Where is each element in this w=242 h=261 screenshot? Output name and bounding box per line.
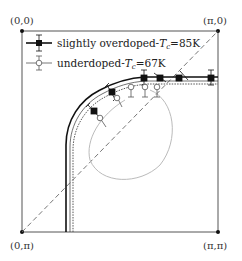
corner-label-bottom-right: (π,π): [203, 240, 227, 251]
underdoped-fermi-surface: [73, 84, 218, 232]
overdoped-fermi-surface-inner: [70, 81, 218, 232]
corner-dot-bottom-right: [216, 230, 220, 234]
corner-dot-top-left: [20, 29, 24, 33]
filled-square-marker-icon: [36, 40, 42, 46]
legend-item-overdoped: slightly overdoped-Tc=85K: [26, 35, 200, 51]
pocket-contour: [89, 90, 172, 179]
corner-label-top-right: (π,0): [203, 15, 227, 26]
corner-label-bottom-left: (0,π): [10, 240, 34, 251]
legend-label-overdoped: slightly overdoped-Tc=85K: [57, 37, 200, 51]
legend: slightly overdoped-Tc=85K underdoped-Tc=…: [26, 35, 200, 71]
legend-label-underdoped: underdoped-Tc=67K: [57, 57, 166, 71]
legend-item-underdoped: underdoped-Tc=67K: [26, 56, 166, 71]
fermi-surface-diagram: (0,0) (π,0) (0,π) (π,π): [0, 0, 242, 261]
corner-label-top-left: (0,0): [10, 15, 34, 26]
open-circle-marker-icon: [36, 60, 42, 66]
